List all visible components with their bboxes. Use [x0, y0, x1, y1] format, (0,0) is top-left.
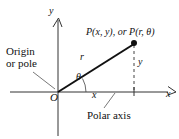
- angle-arc: [83, 79, 87, 93]
- origin-leader-line: [33, 72, 55, 89]
- origin-symbol-label: O: [50, 92, 58, 104]
- x-axis-label: x: [166, 89, 170, 100]
- y-segment-label: y: [138, 57, 142, 68]
- angle-theta-label: θ: [76, 72, 81, 83]
- origin-label-line2: or pole: [6, 58, 37, 70]
- radius-ray: [58, 44, 134, 92]
- polar-axis-leader-line: [104, 93, 115, 108]
- y-axis-label: y: [49, 6, 53, 17]
- polar-coordinate-diagram: P(x, y), or P(r, θ) Origin or pole O r θ…: [0, 0, 179, 139]
- polar-axis-label: Polar axis: [87, 110, 131, 122]
- origin-label-line1: Origin: [6, 46, 37, 58]
- origin-or-pole-label: Origin or pole: [6, 46, 37, 69]
- radius-label: r: [80, 52, 84, 63]
- point-p-marker: [131, 40, 137, 46]
- x-segment-label: x: [92, 90, 96, 101]
- point-p-label: P(x, y), or P(r, θ): [86, 27, 155, 38]
